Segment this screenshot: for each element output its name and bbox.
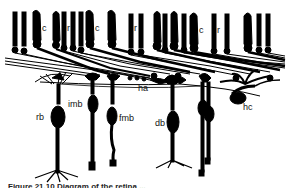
label-rod-3: r <box>217 26 220 35</box>
amacrine-like-cells <box>198 73 214 176</box>
label-cone-2: c <box>95 24 100 33</box>
label-cone-1: c <box>42 24 47 33</box>
label-rb: rb <box>36 113 44 122</box>
label-fmb: fmb <box>119 114 134 123</box>
label-rod-2: r <box>134 24 137 33</box>
label-ha: ha <box>138 84 148 93</box>
label-rod-1: r <box>67 24 70 33</box>
label-imb: imb <box>68 100 83 109</box>
rod-bipolar-cell <box>35 72 78 182</box>
label-hc: hc <box>243 103 253 112</box>
retina-diagram: c r c r c r ha hc rb imb fmb db Figure 2… <box>0 0 293 188</box>
figure-caption: Figure 21.10 Diagram of the retina ... <box>8 182 146 188</box>
label-cone-3: c <box>199 26 204 35</box>
photoreceptor-row <box>12 10 271 55</box>
label-db: db <box>155 119 165 128</box>
invaginating-midget-bipolar-cell <box>85 73 100 170</box>
